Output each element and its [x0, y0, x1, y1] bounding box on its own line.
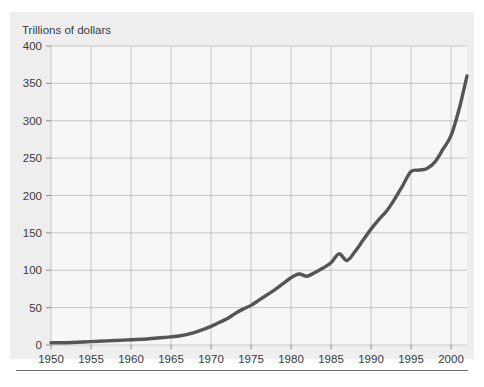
x-axis-tick-marks	[51, 345, 451, 349]
y-tick-label: 0	[36, 339, 42, 351]
y-tick-label: 250	[23, 152, 42, 164]
y-axis-tick-marks	[46, 46, 51, 345]
x-tick-label: 1980	[278, 353, 304, 365]
chart-figure: 050100150200250300350400 195019551960196…	[0, 0, 484, 387]
x-tick-label: 1995	[398, 353, 424, 365]
horizontal-divider-rule	[16, 370, 468, 371]
x-tick-label: 1950	[38, 353, 64, 365]
y-tick-label: 300	[23, 115, 42, 127]
x-tick-label: 1990	[358, 353, 384, 365]
y-tick-label: 50	[29, 302, 42, 314]
y-tick-label: 100	[23, 264, 42, 276]
line-chart-svg: 050100150200250300350400 195019551960196…	[0, 0, 484, 387]
y-axis-title: Trillions of dollars	[22, 24, 111, 36]
x-tick-label: 2000	[438, 353, 464, 365]
x-axis-tick-labels: 1950195519601965197019751980198519901995…	[38, 353, 464, 365]
x-tick-label: 1955	[78, 353, 104, 365]
x-tick-label: 1985	[318, 353, 344, 365]
y-tick-label: 200	[23, 190, 42, 202]
x-tick-label: 1960	[118, 353, 144, 365]
x-tick-label: 1965	[158, 353, 184, 365]
y-tick-label: 150	[23, 227, 42, 239]
x-tick-label: 1975	[238, 353, 264, 365]
x-tick-label: 1970	[198, 353, 224, 365]
y-axis-tick-labels: 050100150200250300350400	[23, 40, 42, 351]
y-tick-label: 350	[23, 77, 42, 89]
y-tick-label: 400	[23, 40, 42, 52]
